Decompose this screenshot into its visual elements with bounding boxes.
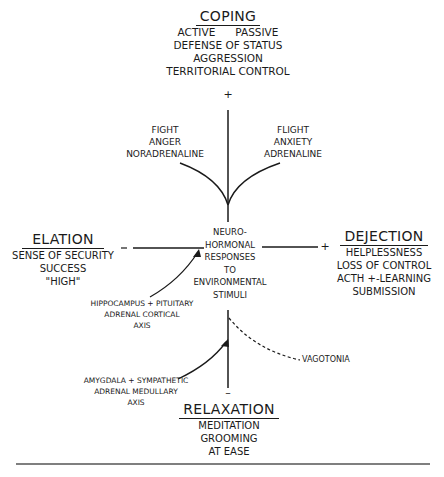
relaxation-title: RELAXATION	[179, 401, 279, 419]
relaxation-block: RELAXATION MEDITATION GROOMING AT EASE	[164, 401, 294, 458]
vagotonia-label: VAGOTONIA	[302, 354, 350, 365]
fight-curve	[180, 163, 228, 205]
vagotonia-curve	[229, 318, 300, 360]
sam-arrow	[178, 342, 226, 379]
elation-title: ELATION	[22, 231, 104, 249]
coping-line: TERRITORIAL CONTROL	[128, 65, 328, 78]
dejection-title: DEJECTION	[340, 228, 427, 246]
coping-line: AGGRESSION	[128, 52, 328, 65]
center-block: NEURO- HORMONAL RESPONSES TO ENVIRONMENT…	[190, 226, 270, 301]
coping-sign: +	[222, 88, 234, 101]
hpa-block: HIPPOCAMPUS + PITUITARY ADRENAL CORTICAL…	[80, 298, 204, 331]
dejection-block: DEJECTION HELPLESSNESS LOSS OF CONTROL A…	[328, 228, 440, 298]
coping-active-passive: ACTIVE PASSIVE	[128, 26, 328, 39]
coping-block: COPING ACTIVE PASSIVE DEFENSE OF STATUS …	[128, 8, 328, 78]
coping-line: DEFENSE OF STATUS	[128, 39, 328, 52]
flight-block: FLIGHT ANXIETY ADRENALINE	[258, 124, 328, 160]
relaxation-sign: –	[222, 386, 234, 399]
fight-block: FIGHT ANGER NORADRENALINE	[125, 124, 205, 160]
elation-block: ELATION SENSE OF SECURITY SUCCESS "HIGH"	[8, 231, 118, 288]
flight-curve	[228, 163, 280, 205]
coping-title: COPING	[196, 8, 261, 26]
